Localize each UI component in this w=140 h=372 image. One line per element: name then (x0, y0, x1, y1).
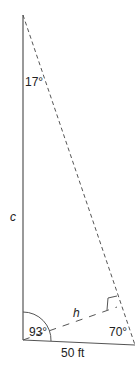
angle-bottom-left-label: 93° (29, 326, 47, 338)
right-angle-marker (107, 296, 117, 310)
angle-top-label: 17° (25, 76, 43, 88)
triangle-diagram (0, 0, 140, 372)
side-c-label: c (10, 211, 16, 223)
angle-bottom-right-label: 70° (109, 326, 127, 338)
height-h-label: h (73, 307, 80, 319)
side-base (23, 340, 135, 345)
side-base-label: 50 ft (61, 347, 84, 359)
side-hypotenuse (23, 15, 135, 345)
